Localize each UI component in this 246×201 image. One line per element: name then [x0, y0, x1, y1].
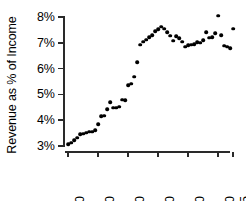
x-axis-tick-label: 2005	[238, 196, 246, 201]
y-axis-tick	[58, 94, 63, 96]
x-axis-tick	[157, 152, 159, 157]
data-point	[132, 75, 136, 79]
data-point	[150, 33, 154, 37]
x-axis-line	[65, 151, 230, 153]
x-axis-tick-label: 1990	[193, 196, 207, 201]
data-point	[231, 27, 235, 31]
data-point	[123, 98, 127, 102]
data-point	[138, 43, 142, 47]
x-axis-tick-label: 1970	[133, 196, 147, 201]
data-point	[102, 114, 106, 118]
y-axis-label: Revenue as % of Income	[2, 5, 22, 165]
data-point	[213, 31, 217, 35]
data-point	[201, 38, 205, 42]
x-axis-tick-label: 1980	[163, 196, 177, 201]
data-point	[204, 30, 208, 34]
data-point	[228, 46, 232, 50]
y-axis-tick-label: 7%	[25, 36, 55, 50]
y-axis-tick-label: 6%	[25, 62, 55, 76]
x-axis-tick	[67, 152, 69, 157]
data-point	[129, 82, 133, 86]
x-axis-tick	[217, 152, 219, 157]
y-axis-tick-label: 4%	[25, 113, 55, 127]
x-axis-tick	[232, 152, 234, 157]
x-axis-tick-label: 1960	[103, 196, 117, 201]
x-axis-tick-label: 2000	[223, 196, 237, 201]
y-axis-tick	[58, 119, 63, 121]
data-point	[93, 128, 97, 132]
y-axis-tick-label: 5%	[25, 87, 55, 101]
data-point	[219, 33, 223, 37]
plot-area	[64, 10, 230, 150]
data-point	[171, 39, 175, 43]
data-point	[117, 105, 121, 109]
x-axis-tick	[97, 152, 99, 157]
y-axis-tick	[58, 68, 63, 70]
y-axis-tick	[58, 16, 63, 18]
x-axis-tick	[187, 152, 189, 157]
data-point	[210, 35, 214, 39]
data-point	[135, 60, 139, 64]
data-point	[168, 34, 172, 38]
x-axis-tick	[127, 152, 129, 157]
y-axis-tick-label: 8%	[25, 10, 55, 24]
y-axis-tick-label: 3%	[25, 139, 55, 153]
data-point	[180, 40, 184, 44]
scatter-chart: Revenue as % of Income 3%4%5%6%7%8% 1950…	[0, 0, 246, 201]
data-point	[108, 100, 112, 104]
y-axis-tick	[58, 145, 63, 147]
data-point	[75, 136, 79, 140]
y-axis-tick	[58, 42, 63, 44]
data-point	[216, 14, 220, 18]
data-point	[96, 122, 100, 126]
data-point	[105, 108, 109, 112]
x-axis-tick-label: 1950	[73, 196, 87, 201]
